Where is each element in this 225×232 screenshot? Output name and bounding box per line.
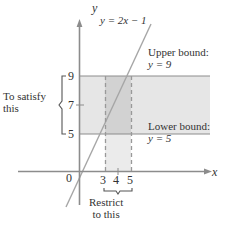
equation-label: y = 2x − 1 [100, 14, 147, 26]
lower-bound-line2: y = 5 [148, 132, 171, 144]
restrict-domain-label: Restrict to this [89, 196, 123, 221]
range-brace [59, 76, 66, 134]
math-figure: y x 9 7 5 0 3 4 5 y = 2x − 1 Upper bound… [0, 0, 225, 232]
x-axis-arrow [204, 169, 212, 175]
x-axis-label: x [212, 166, 217, 179]
lower-bound-line1: Lower bound: [148, 120, 210, 132]
solution-overlap-shading [105, 76, 131, 134]
upper-bound-label: Upper bound: y = 9 [148, 46, 209, 71]
upper-bound-line1: Upper bound: [148, 46, 209, 58]
restrict-line2: to this [93, 208, 120, 220]
domain-strip-shading [105, 134, 131, 172]
satisfy-line1: To satisfy [3, 90, 46, 102]
satisfy-condition-label: To satisfy this [3, 90, 46, 115]
satisfy-line2: this [3, 102, 19, 114]
y-tick-label-7: 7 [68, 99, 74, 112]
y-tick-label-5: 5 [68, 128, 74, 141]
y-axis-arrow [77, 19, 83, 27]
x-tick-label-5: 5 [127, 174, 133, 187]
y-axis-label: y [92, 2, 97, 15]
upper-bound-line2: y = 9 [148, 58, 171, 70]
origin-label: 0 [66, 172, 72, 185]
y-tick-label-9: 9 [68, 70, 74, 83]
restrict-line1: Restrict [89, 196, 123, 208]
x-tick-label-3: 3 [100, 174, 106, 187]
x-tick-label-4: 4 [113, 174, 119, 187]
domain-brace [104, 188, 132, 194]
lower-bound-label: Lower bound: y = 5 [148, 120, 210, 145]
